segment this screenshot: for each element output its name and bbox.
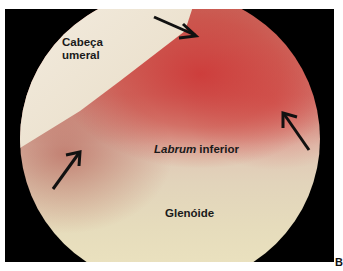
arrow-left-icon: [53, 152, 80, 189]
panel-letter: B: [335, 256, 343, 268]
arrow-right-icon: [283, 113, 309, 150]
arrow-top-icon: [154, 17, 196, 38]
